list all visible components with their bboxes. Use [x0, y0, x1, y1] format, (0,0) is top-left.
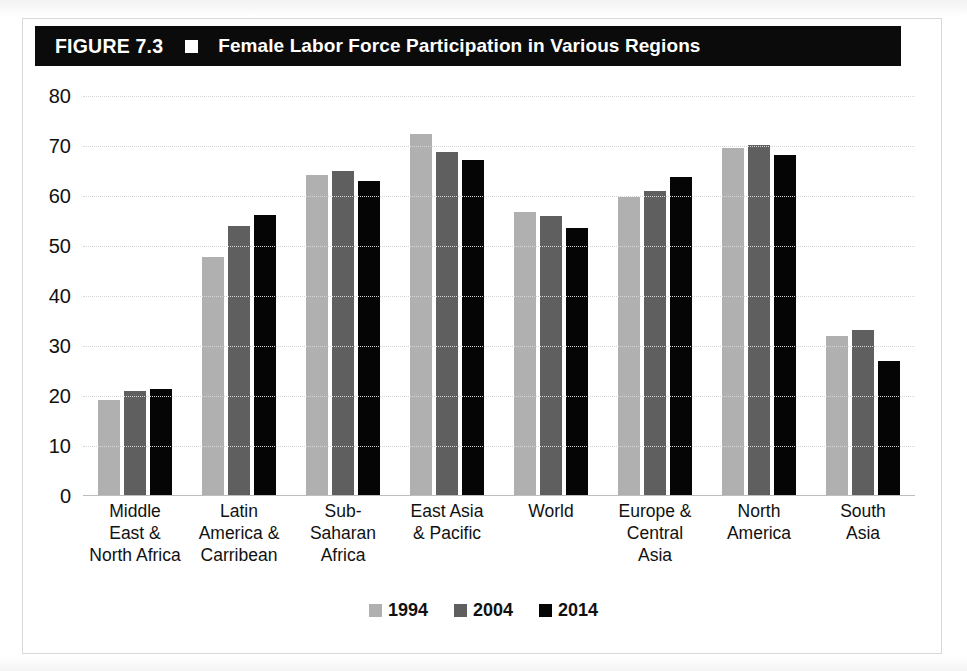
figure-number: FIGURE 7.3	[55, 35, 163, 58]
bar	[540, 216, 562, 496]
x-axis-labels: MiddleEast &North AfricaLatinAmerica &Ca…	[83, 500, 915, 566]
bar	[566, 228, 588, 497]
x-axis-category-label: East Asia& Pacific	[395, 500, 499, 566]
y-axis-tick-label: 50	[49, 235, 71, 258]
x-axis-category-label-line: Middle	[84, 500, 186, 522]
x-axis-category-label-line: Latin	[188, 500, 290, 522]
x-axis-category-label: LatinAmerica &Carribean	[187, 500, 291, 566]
x-axis-category-label-line: North	[708, 500, 810, 522]
bar	[436, 152, 458, 496]
x-axis-category-label-line: & Pacific	[396, 522, 498, 544]
bar	[410, 134, 432, 497]
x-axis-category-label-line: Europe &	[604, 500, 706, 522]
gridline	[83, 146, 915, 147]
figure-title: Female Labor Force Participation in Vari…	[218, 35, 700, 57]
bar	[332, 171, 354, 496]
x-axis-category-label-line: Asia	[604, 544, 706, 566]
y-axis-tick-label: 10	[49, 435, 71, 458]
legend-label: 2004	[473, 600, 513, 621]
chart-legend: 199420042014	[0, 600, 967, 621]
x-axis-category-label-line: North Africa	[84, 544, 186, 566]
y-axis-tick-label: 40	[49, 285, 71, 308]
y-axis-tick-label: 60	[49, 185, 71, 208]
bar	[306, 175, 328, 497]
bar	[722, 148, 744, 497]
x-axis-category-label-line: America	[708, 522, 810, 544]
x-axis-category-label: Europe &CentralAsia	[603, 500, 707, 566]
bar	[98, 400, 120, 497]
x-axis-category-label-line: South	[812, 500, 914, 522]
y-axis: 80706050403020100	[35, 96, 77, 496]
bar	[124, 391, 146, 496]
x-axis-category-label-line: East Asia	[396, 500, 498, 522]
plot-area	[83, 96, 915, 496]
legend-item: 1994	[369, 600, 428, 621]
x-axis-category-label: MiddleEast &North Africa	[83, 500, 187, 566]
gridline	[83, 396, 915, 397]
gridline	[83, 446, 915, 447]
x-axis-category-label: NorthAmerica	[707, 500, 811, 566]
gridline	[83, 296, 915, 297]
legend-item: 2014	[539, 600, 598, 621]
x-axis-category-label: World	[499, 500, 603, 566]
bar	[748, 145, 770, 496]
x-axis-category-label-line: Saharan	[292, 522, 394, 544]
bar	[228, 226, 250, 496]
bar	[878, 361, 900, 496]
bar	[670, 177, 692, 497]
x-axis-category-label-line: Asia	[812, 522, 914, 544]
x-axis-category-label-line: World	[500, 500, 602, 522]
legend-label: 2014	[558, 600, 598, 621]
x-axis-category-label-line: America &	[188, 522, 290, 544]
x-axis-category-label-line: Sub-	[292, 500, 394, 522]
bar	[852, 330, 874, 497]
legend-label: 1994	[388, 600, 428, 621]
gridline	[83, 196, 915, 197]
plot-wrapper: 80706050403020100	[35, 96, 915, 496]
bar	[358, 181, 380, 496]
y-axis-tick-label: 30	[49, 335, 71, 358]
bar	[514, 212, 536, 496]
bar	[644, 191, 666, 496]
legend-swatch-icon	[369, 604, 382, 617]
gridline	[83, 346, 915, 347]
bar	[150, 389, 172, 497]
gridline	[83, 246, 915, 247]
bar	[202, 257, 224, 496]
figure-title-banner: FIGURE 7.3 Female Labor Force Participat…	[35, 26, 901, 66]
bar	[254, 215, 276, 496]
page-edge-top-shading	[0, 0, 967, 16]
white-square-icon	[185, 40, 198, 53]
x-axis-baseline	[83, 495, 915, 496]
bar	[826, 336, 848, 496]
legend-swatch-icon	[539, 604, 552, 617]
bar	[774, 155, 796, 497]
x-axis-category-label-line: Carribean	[188, 544, 290, 566]
legend-item: 2004	[454, 600, 513, 621]
y-axis-tick-label: 80	[49, 85, 71, 108]
y-axis-tick-label: 70	[49, 135, 71, 158]
page-edge-bottom-shading	[0, 657, 967, 671]
legend-swatch-icon	[454, 604, 467, 617]
x-axis-category-label-line: East &	[84, 522, 186, 544]
y-axis-tick-label: 0	[60, 485, 71, 508]
x-axis-category-label: Sub-SaharanAfrica	[291, 500, 395, 566]
gridline	[83, 96, 915, 97]
y-axis-tick-label: 20	[49, 385, 71, 408]
x-axis-category-label-line: Africa	[292, 544, 394, 566]
x-axis-category-label-line: Central	[604, 522, 706, 544]
x-axis-category-label: SouthAsia	[811, 500, 915, 566]
figure-card: FIGURE 7.3 Female Labor Force Participat…	[0, 0, 967, 671]
